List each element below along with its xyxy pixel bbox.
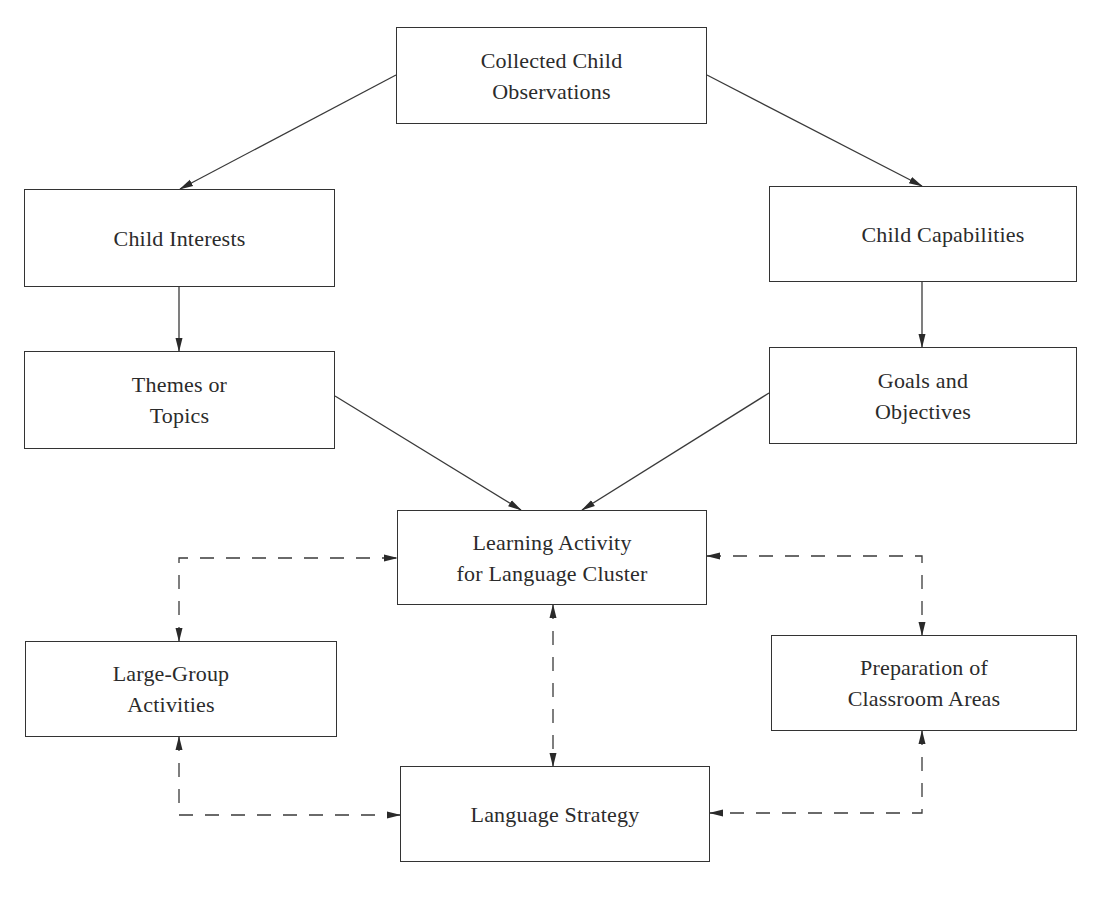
node-label: Language Strategy (471, 799, 640, 830)
node-label: Themes or Topics (132, 369, 227, 431)
flowchart-diagram: Collected Child Observations Child Inter… (0, 0, 1099, 899)
node-large-group-activities: Large-Group Activities (25, 641, 337, 737)
node-preparation-of-classroom-areas: Preparation of Classroom Areas (771, 635, 1077, 731)
arrow-learning-activity-large-group (179, 558, 397, 641)
arrow-large-group-language-strategy (179, 737, 400, 815)
node-learning-activity: Learning Activity for Language Cluster (397, 510, 707, 605)
node-label: Collected Child Observations (481, 45, 623, 107)
connector-layer (0, 0, 1099, 899)
node-language-strategy: Language Strategy (400, 766, 710, 862)
node-child-interests: Child Interests (24, 189, 335, 287)
arrow-goals-to-learning-activity (582, 393, 769, 510)
node-collected-child-observations: Collected Child Observations (396, 27, 707, 124)
node-themes-or-topics: Themes or Topics (24, 351, 335, 449)
arrow-observations-to-capabilities (707, 75, 922, 186)
arrow-learning-activity-classroom-areas (707, 556, 922, 635)
node-label: Child Capabilities (821, 219, 1024, 250)
node-child-capabilities: Child Capabilities (769, 186, 1077, 282)
node-label: Preparation of Classroom Areas (848, 652, 1001, 714)
node-label: Large-Group Activities (113, 658, 230, 720)
arrow-classroom-areas-language-strategy (710, 731, 922, 813)
node-label: Child Interests (114, 223, 246, 254)
node-goals-and-objectives: Goals and Objectives (769, 347, 1077, 444)
arrow-observations-to-interests (180, 75, 396, 189)
node-label: Learning Activity for Language Cluster (457, 527, 648, 589)
arrow-themes-to-learning-activity (335, 396, 521, 510)
node-label: Goals and Objectives (875, 365, 971, 427)
